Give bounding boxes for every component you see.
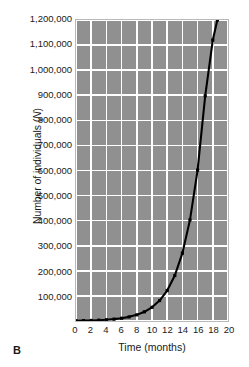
y-tick-label: 500,000 (14, 191, 72, 201)
y-tick-label: 800,000 (14, 115, 72, 125)
y-axis-tick-labels: 100,000200,000300,000400,000500,000600,0… (14, 19, 72, 322)
figure-panel-b: Number of individuals (N) 100,000200,000… (0, 0, 249, 367)
x-tick-label: 20 (224, 324, 235, 336)
y-tick-label: 700,000 (14, 140, 72, 150)
x-axis-tick-labels: 02468101214161820 (75, 324, 229, 338)
plot-area (75, 19, 229, 322)
x-tick-label: 2 (88, 324, 93, 336)
y-tick-label: 600,000 (14, 166, 72, 176)
x-tick-label: 16 (193, 324, 204, 336)
y-tick-label: 100,000 (14, 292, 72, 302)
y-tick-label: 1,200,000 (14, 14, 72, 24)
y-tick-label: 900,000 (14, 90, 72, 100)
x-tick-label: 18 (208, 324, 219, 336)
x-tick-label: 10 (147, 324, 158, 336)
x-axis-title: Time (months) (75, 341, 229, 353)
x-tick-label: 4 (103, 324, 108, 336)
x-tick-label: 8 (134, 324, 139, 336)
x-tick-label: 6 (119, 324, 124, 336)
y-tick-label: 1,000,000 (14, 65, 72, 75)
y-tick-label: 400,000 (14, 216, 72, 226)
y-tick-label: 1,100,000 (14, 39, 72, 49)
y-tick-label: 200,000 (14, 267, 72, 277)
x-tick-label: 12 (162, 324, 173, 336)
y-tick-label: 300,000 (14, 241, 72, 251)
panel-label: B (13, 344, 21, 356)
x-tick-label: 14 (178, 324, 189, 336)
data-series-curve (76, 20, 228, 321)
x-tick-label: 0 (72, 324, 77, 336)
